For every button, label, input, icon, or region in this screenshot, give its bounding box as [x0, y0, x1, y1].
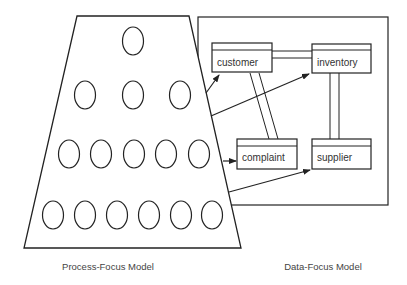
entity-inventory: inventory — [312, 44, 371, 73]
entity-supplier: supplier — [312, 139, 371, 169]
data-model-caption: Data-Focus Model — [284, 261, 362, 272]
entity-label: customer — [217, 57, 259, 68]
entity-complaint: complaint — [237, 139, 297, 169]
relationship-customer-complaint — [250, 73, 278, 139]
entity-label: supplier — [317, 152, 353, 163]
arrow-to-supplier — [229, 170, 310, 192]
entity-label: inventory — [317, 57, 358, 68]
arrow-to-inventory — [211, 74, 309, 116]
diagram-canvas: customer inventory complaint supplier Pr… — [0, 0, 407, 285]
entity-label: complaint — [242, 152, 285, 163]
relationship-customer-inventory — [272, 51, 312, 58]
process-trapezoid — [24, 16, 241, 248]
process-model — [24, 16, 241, 248]
relationship-inventory-supplier — [330, 73, 339, 139]
arrow-to-customer — [206, 75, 219, 93]
entity-customer: customer — [212, 43, 272, 72]
process-model-caption: Process-Focus Model — [62, 261, 154, 272]
